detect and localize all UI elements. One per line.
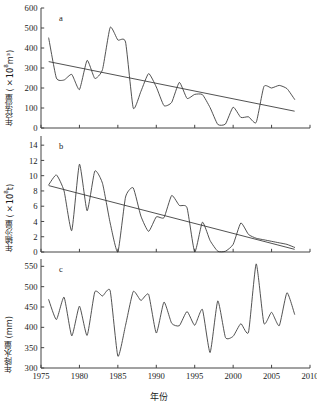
y-tick-label: 350: [25, 343, 38, 353]
y-tick-label: 400: [25, 322, 38, 332]
data-series-line: [49, 27, 295, 125]
panel-a-y-axis-label: 年径流量 (×108m³): [3, 14, 16, 126]
panel-c: 年降水量 (mm) 300350400450500550197519801985…: [0, 255, 317, 380]
panel-letter: b: [59, 141, 63, 151]
y-tick-label: 6: [33, 201, 38, 211]
y-tick-label: 4: [33, 217, 38, 227]
y-tick-label: 500: [25, 23, 38, 33]
y-tick-label: 12: [29, 156, 38, 166]
y-tick-label: 600: [25, 3, 38, 13]
x-tick-label: 2000: [225, 371, 242, 380]
y-tick-label: 300: [25, 63, 38, 73]
panel-b-plot: 02468101214b: [0, 130, 317, 260]
y-tick-label: 10: [29, 171, 38, 181]
panel-a: 年径流量 (×108m³) 0100200300400500600a: [0, 0, 317, 136]
x-tick-label: 2005: [263, 371, 280, 380]
panel-c-plot: 3003504004505005501975198019851990199520…: [0, 255, 317, 380]
x-tick-label: 1985: [109, 371, 126, 380]
x-axis-label: 年份: [0, 390, 317, 403]
x-tick-label: 1990: [148, 371, 165, 380]
trend-line: [49, 62, 295, 112]
y-tick-label: 200: [25, 83, 38, 93]
figure-container: 年径流量 (×108m³) 0100200300400500600a 年输沙量 …: [0, 0, 317, 409]
panel-letter: a: [59, 13, 63, 23]
data-series-line: [49, 264, 295, 357]
y-tick-label: 450: [25, 302, 38, 312]
data-series-line: [49, 164, 295, 252]
y-tick-label: 8: [33, 186, 37, 196]
y-tick-label: 550: [25, 261, 38, 271]
y-tick-label: 100: [25, 103, 38, 113]
panel-letter: c: [59, 264, 63, 274]
y-tick-label: 400: [25, 43, 38, 53]
x-tick-label: 1980: [71, 371, 88, 380]
x-tick-label: 2010: [301, 371, 317, 380]
x-tick-label: 1975: [32, 371, 49, 380]
y-tick-label: 14: [29, 140, 38, 150]
panel-b-y-axis-label: 年输沙量 (×108t): [3, 148, 16, 252]
panel-a-plot: 0100200300400500600a: [0, 0, 317, 136]
x-tick-label: 1995: [186, 371, 203, 380]
y-tick-label: 500: [25, 282, 38, 292]
panel-b: 年输沙量 (×108t) 02468101214b: [0, 130, 317, 260]
y-tick-label: 2: [33, 232, 37, 242]
panel-c-y-axis-label: 年降水量 (mm): [3, 277, 15, 373]
